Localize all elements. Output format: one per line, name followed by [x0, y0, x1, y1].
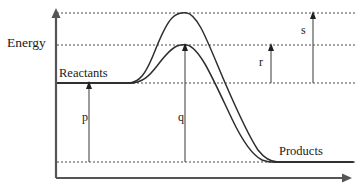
products-label: Products — [279, 145, 323, 158]
energy-profile-diagram: Energy Reactants Products p q r s — [0, 0, 360, 187]
reactants-label: Reactants — [59, 67, 108, 80]
y-axis-title: Energy — [7, 36, 46, 50]
arrow-p-label: p — [82, 111, 88, 123]
uncatalysed-pathway-curve — [57, 13, 353, 162]
arrow-q — [182, 43, 188, 162]
x-axis — [56, 174, 352, 183]
arrow-s-label: s — [301, 24, 306, 36]
arrow-q-label: q — [178, 111, 184, 123]
arrow-r — [268, 43, 274, 83]
energy-profile-plot — [0, 0, 360, 187]
arrow-r-label: r — [259, 56, 263, 68]
y-axis — [52, 8, 61, 178]
arrow-s — [310, 11, 316, 83]
